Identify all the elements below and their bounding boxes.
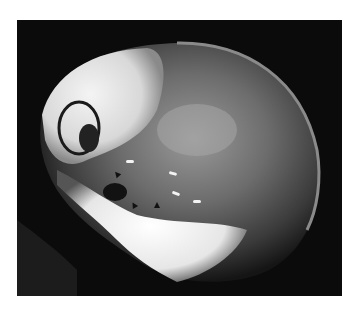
- white-marker: [193, 200, 201, 203]
- skull-xray-image: [17, 20, 342, 296]
- white-marker: [126, 160, 134, 163]
- radiograph-frame: [17, 20, 342, 296]
- arrow-marker: [154, 202, 160, 208]
